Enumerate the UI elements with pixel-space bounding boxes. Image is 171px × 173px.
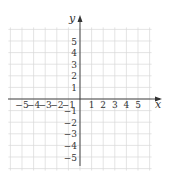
y-tick-label: −1 <box>64 106 77 116</box>
x-tick-label: 5 <box>135 100 141 110</box>
y-tick-label: 1 <box>71 83 77 93</box>
x-tick-label: 2 <box>100 100 106 110</box>
y-tick-label: −2 <box>64 118 77 128</box>
y-axis-label: y <box>68 12 76 25</box>
y-tick-label: −4 <box>64 141 78 151</box>
x-axis-label: x <box>155 98 162 111</box>
y-tick-label: 5 <box>71 37 77 47</box>
x-tick-labels: −5−4−3−2−112345 <box>15 100 141 110</box>
y-tick-label: 4 <box>71 48 77 58</box>
y-tick-label: 3 <box>71 60 77 70</box>
axes <box>8 15 162 166</box>
y-tick-label: 2 <box>71 71 77 81</box>
y-tick-label: −5 <box>64 153 78 163</box>
y-tick-label: −3 <box>64 129 78 139</box>
x-tick-label: 1 <box>89 100 95 110</box>
y-axis-arrow-icon <box>78 15 83 22</box>
coordinate-plane: −5−4−3−2−112345 54321−1−2−3−4−5 x y <box>0 0 171 173</box>
x-tick-label: 3 <box>112 100 118 110</box>
x-tick-label: 4 <box>124 100 130 110</box>
